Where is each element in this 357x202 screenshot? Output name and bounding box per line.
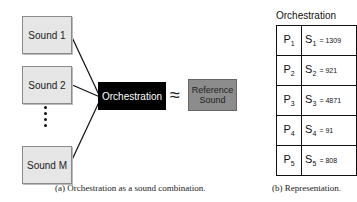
caption-b: (b) Representation. <box>272 183 341 193</box>
reference-sound-box: Reference Sound <box>188 79 237 111</box>
table-row: P2 S2 = 921 <box>277 56 357 86</box>
reference-label-line2: Sound <box>199 95 225 105</box>
ellipsis-dots <box>43 106 49 130</box>
sound-1-label: Sound 1 <box>28 30 65 41</box>
approx-symbol: ≈ <box>170 83 180 107</box>
sound-2-label: Sound 2 <box>28 80 65 91</box>
sound-2-box: Sound 2 <box>22 66 72 104</box>
reference-label-line1: Reference <box>192 85 234 95</box>
representation-title: Orchestration <box>276 10 336 21</box>
orchestration-box: Orchestration <box>98 82 166 110</box>
sound-1-box: Sound 1 <box>22 16 72 54</box>
table-row: P5 S5 = 808 <box>277 146 357 176</box>
orchestration-label: Orchestration <box>102 91 162 102</box>
table-row: P1 S1 = 1309 <box>277 26 357 56</box>
table-row: P4 S4 = 91 <box>277 116 357 146</box>
sound-m-box: Sound M <box>22 146 72 184</box>
representation-table: P1 S1 = 1309 P2 S2 = 921 P3 S3 = 4871 P4… <box>276 25 357 176</box>
table-row: P3 S3 = 4871 <box>277 86 357 116</box>
caption-a: (a) Orchestration as a sound combination… <box>55 183 205 193</box>
sound-m-label: Sound M <box>27 160 67 171</box>
